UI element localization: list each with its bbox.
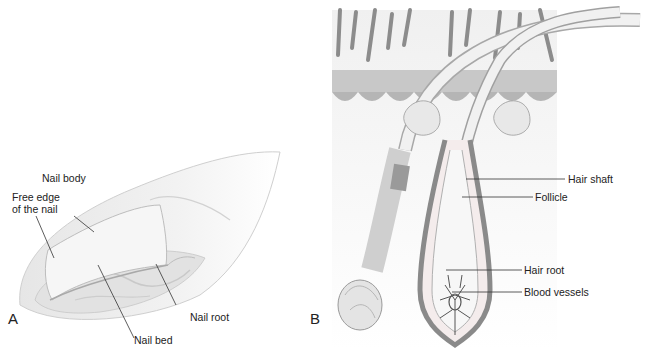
label-hair-root: Hair root bbox=[524, 264, 564, 276]
anatomy-figure: Nail body Free edge of the nail Nail roo… bbox=[0, 0, 649, 359]
label-nail-bed: Nail bed bbox=[134, 334, 173, 346]
label-hair-shaft: Hair shaft bbox=[568, 173, 613, 185]
label-free-edge-line2: of the nail bbox=[12, 203, 58, 215]
illustration-art bbox=[0, 0, 649, 359]
label-nail-root: Nail root bbox=[190, 311, 229, 323]
label-blood-vessels: Blood vessels bbox=[524, 286, 589, 298]
label-follicle: Follicle bbox=[535, 191, 568, 203]
label-nail-body: Nail body bbox=[42, 172, 86, 184]
label-free-edge-line1: Free edge bbox=[12, 191, 60, 203]
panel-letter-b: B bbox=[310, 310, 320, 327]
panel-letter-a: A bbox=[8, 310, 18, 327]
